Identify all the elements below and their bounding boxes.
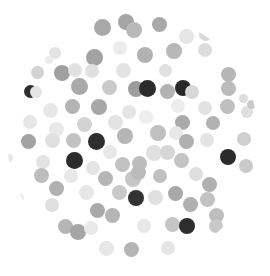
scatter-dot [98,171,113,186]
scatter-dot [239,159,253,173]
scatter-dot [200,192,215,207]
scatter-dot [152,17,167,32]
scatter-dot [209,219,223,233]
scatter-dot [179,134,194,149]
scatter-dot [30,86,42,98]
scatter-dot [112,185,127,200]
scatter-dot [85,64,99,78]
scatter-dot [198,43,212,57]
scatter-dot [16,194,24,202]
scatter-dot [168,186,183,201]
scatter-dot [108,115,123,130]
scatter-dot [150,125,166,141]
scatter-dot [183,197,198,212]
scatter-dot [137,47,153,63]
scatter-dot [214,30,226,42]
scatter-dot [122,105,136,119]
scatter-dot [113,41,127,55]
scatter-dot [148,190,163,205]
scatter-dot [105,208,120,223]
scatter-dot [115,157,130,172]
scatter-dot [103,145,117,159]
scatter-dot [137,219,151,233]
scatter-dot [102,80,117,95]
scatter-dot [5,154,13,162]
scatter-dot [45,133,60,148]
scatter-dot [171,99,185,113]
scatter-dot [66,133,81,148]
scatter-dot [220,149,236,165]
scatter-dot [239,94,248,103]
scatter-dot [198,101,212,115]
scatter-dot [220,99,235,114]
scatter-dot [34,168,49,183]
scatter-dot [45,56,53,64]
scatter-dot [45,198,59,212]
scatter-dot [86,49,103,66]
scatter-dot [64,169,78,183]
dot-scatter-figure [0,0,270,276]
scatter-dot [79,185,94,200]
scatter-dot [160,84,175,99]
scatter-dot [117,128,133,144]
scatter-dot [160,145,175,160]
scatter-dot [153,169,167,183]
scatter-dot [86,161,100,175]
scatter-dot [174,153,189,168]
scatter-dot [199,28,212,41]
scatter-dot [206,116,220,130]
scatter-dot [90,203,105,218]
scatter-dot [179,29,194,44]
scatter-dot [43,103,58,118]
scatter-dot [159,64,172,77]
scatter-dot [179,218,195,234]
scatter-dot [91,99,107,115]
scatter-dot [189,167,203,181]
scatter-dot [71,78,88,95]
scatter-dot [131,165,146,180]
scatter-dot [126,22,142,38]
scatter-dot [161,241,175,255]
scatter-dot [166,43,182,59]
scatter-dot [116,63,131,78]
scatter-dot [221,67,236,82]
scatter-dot [36,155,50,169]
scatter-dot [200,133,214,147]
dot-layer [0,0,270,276]
scatter-dot [124,242,139,257]
scatter-dot [66,152,83,169]
scatter-dot [185,85,199,99]
scatter-dot [31,66,44,79]
scatter-dot [65,99,80,114]
scatter-dot [139,80,156,97]
scatter-dot [202,177,217,192]
scatter-dot [68,63,82,77]
scatter-dot [221,81,236,96]
scatter-dot [49,181,64,196]
scatter-dot [128,190,144,206]
scatter-dot [94,19,111,36]
scatter-dot [88,133,105,150]
scatter-dot [99,241,114,256]
scatter-dot [165,217,180,232]
scatter-dot [77,117,92,132]
scatter-dot [237,132,251,146]
circular-clip-region [0,0,270,276]
scatter-dot [139,110,153,124]
scatter-dot [84,221,98,235]
scatter-dot [21,134,36,149]
scatter-dot [247,100,256,109]
scatter-dot [23,115,37,129]
scatter-dot [240,62,252,74]
